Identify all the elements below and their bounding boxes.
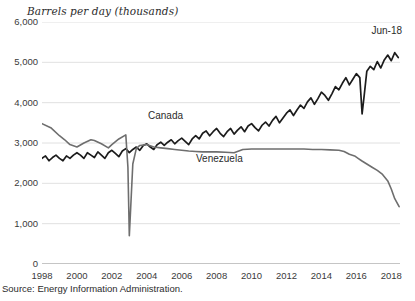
series-label-venezuela: Venezuela — [196, 153, 243, 164]
y-tick-label: 6,000 — [0, 17, 38, 27]
series-line-canada — [42, 53, 398, 161]
series-label-canada: Canada — [148, 110, 183, 121]
line-chart-svg — [42, 22, 400, 264]
annotation-jun18: Jun-18 — [371, 25, 402, 36]
source-note: Source: Energy Information Administratio… — [2, 283, 183, 294]
y-tick-label: 1,000 — [0, 219, 38, 229]
chart-container: Barrels per day (thousands) 01,0002,0003… — [0, 0, 415, 301]
y-tick-label: 3,000 — [0, 138, 38, 148]
plot-area — [42, 22, 400, 264]
x-tick-label: 2018 — [371, 271, 411, 281]
series-line-venezuela — [42, 124, 399, 236]
y-tick-label: 0 — [0, 259, 38, 269]
y-tick-label: 2,000 — [0, 178, 38, 188]
y-tick-label: 5,000 — [0, 57, 38, 67]
y-axis-title: Barrels per day (thousands) — [27, 5, 178, 17]
y-tick-label: 4,000 — [0, 98, 38, 108]
